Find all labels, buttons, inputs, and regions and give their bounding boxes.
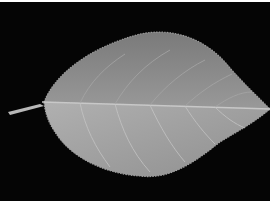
leaf-photo: Grayscale photograph of a serrated ovate… — [0, 2, 270, 201]
leaf-illustration — [0, 2, 270, 201]
leaf-lower-half — [44, 102, 270, 177]
leaf-upper-half — [44, 32, 270, 109]
stem — [8, 104, 44, 115]
